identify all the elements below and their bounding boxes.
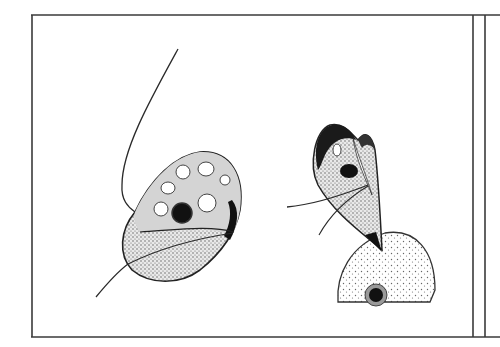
round-cell-nucleus xyxy=(369,288,383,302)
upper-cytoplasm xyxy=(134,152,241,236)
protozoa-illustration xyxy=(0,0,500,347)
pear-cell-vacuole xyxy=(333,144,341,156)
right-organism xyxy=(287,125,435,306)
pear-cell-nucleus xyxy=(340,164,358,178)
left-organism xyxy=(96,49,241,297)
nucleus xyxy=(172,203,192,223)
